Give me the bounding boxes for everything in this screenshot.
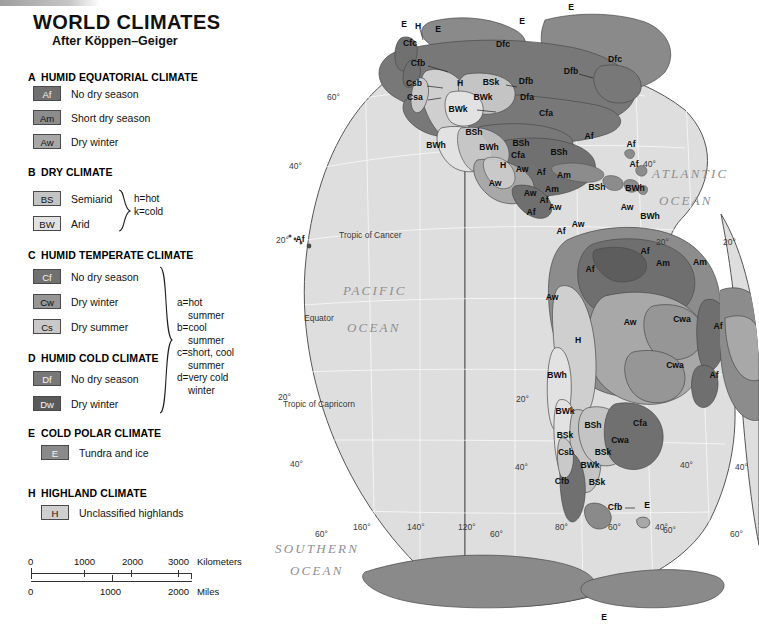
legend-note-b: h=hot k=cold bbox=[134, 193, 163, 218]
lat-label-40n-left: 40° bbox=[289, 161, 302, 171]
legend-swatch-bw[interactable]: BW bbox=[33, 216, 61, 231]
climate-code-af-33: Af bbox=[526, 207, 535, 217]
legend-label-cf: No dry season bbox=[71, 271, 139, 283]
legend-label-af: No dry season bbox=[71, 88, 139, 100]
scale-bar: 0 1000 2000 3000 Kilometers 0 1000 2000 … bbox=[28, 556, 218, 602]
legend-group-title-e: COLD POLAR CLIMATE bbox=[41, 427, 161, 439]
climate-code-bwh-43: BWh bbox=[640, 211, 660, 221]
ocean-label-pacific-line2: OCEAN bbox=[347, 320, 401, 335]
map-svg[interactable]: PACIFIC OCEAN ATLANTIC OCEAN SOUTHERN OC… bbox=[215, 0, 759, 634]
climate-code-bwk-17: BWk bbox=[448, 104, 467, 114]
climate-code-cfc-5: Cfc bbox=[403, 38, 417, 48]
legend-label-e: Tundra and ice bbox=[79, 447, 149, 459]
lat-label-40s-right: 40° bbox=[680, 460, 693, 470]
climate-code-cfa-18: Cfa bbox=[539, 108, 553, 118]
climate-code-cfb-6: Cfb bbox=[411, 58, 425, 68]
climate-code-am-29: Am bbox=[557, 170, 571, 180]
legend-label-df: No dry season bbox=[71, 373, 139, 385]
lon-label-40: 40° bbox=[655, 522, 668, 532]
climate-code-e-0: E bbox=[401, 19, 407, 29]
climate-code-e-67: E bbox=[644, 500, 650, 510]
ocean-label-atlantic-line1: ATLANTIC bbox=[651, 166, 728, 181]
climate-code-bsk-65: BSk bbox=[589, 477, 606, 487]
label-equator: Equator bbox=[304, 313, 334, 323]
lat-label-40s-far: 40° bbox=[735, 462, 748, 472]
legend-group-letter-b: B bbox=[28, 166, 36, 178]
scale-km-tick-3: 3000 bbox=[168, 556, 189, 567]
legend-group-title-a: HUMID EQUATORIAL CLIMATE bbox=[41, 71, 198, 83]
climate-code-dfc-8: Dfc bbox=[608, 54, 622, 64]
legend-swatch-cw[interactable]: Cw bbox=[33, 294, 61, 309]
legend-group-title-b: DRY CLIMATE bbox=[41, 166, 113, 178]
ocean-label-pacific-line1: PACIFIC bbox=[342, 283, 407, 298]
legend-label-bw: Arid bbox=[71, 218, 90, 230]
legend-label-aw: Dry winter bbox=[71, 136, 118, 148]
climate-code-bsk-62: BSk bbox=[595, 447, 612, 457]
climate-code-csa-10: Csa bbox=[407, 92, 423, 102]
legend-group-letter-d: D bbox=[28, 352, 36, 364]
legend-swatch-dw[interactable]: Dw bbox=[33, 396, 61, 411]
lat-label-20n-far: 20° bbox=[723, 237, 736, 247]
scale-mi-tick-2: 2000 bbox=[168, 586, 189, 597]
climate-code-bwk-63: BWk bbox=[580, 460, 599, 470]
climate-code-am-44: Am bbox=[656, 258, 670, 268]
legend-label-bs: Semiarid bbox=[71, 193, 112, 205]
world-climate-map[interactable]: PACIFIC OCEAN ATLANTIC OCEAN SOUTHERN OC… bbox=[215, 0, 759, 634]
lon-label-80: 80° bbox=[555, 522, 568, 532]
brace-b bbox=[118, 189, 132, 233]
climate-code-cwa-50: Cwa bbox=[673, 314, 691, 324]
legend-swatch-af[interactable]: Af bbox=[33, 86, 61, 101]
climate-code-bwk-56: BWk bbox=[555, 406, 574, 416]
climate-code-cfb-64: Cfb bbox=[555, 476, 569, 486]
legend-label-cs: Dry summer bbox=[71, 321, 128, 333]
lat-label-20s-mid: 20° bbox=[516, 394, 529, 404]
climate-code-e-2: E bbox=[519, 16, 525, 26]
climate-code-cfb-66: Cfb bbox=[608, 502, 622, 512]
climate-code-af-54: Af bbox=[709, 370, 718, 380]
climate-code-csb-61: Csb bbox=[558, 447, 574, 457]
legend-group-title-d: HUMID COLD CLIMATE bbox=[41, 352, 159, 364]
legend-label-am: Short dry season bbox=[71, 112, 150, 124]
lat-label-60s-left: 60° bbox=[315, 529, 328, 539]
climate-code-cfa-23: Cfa bbox=[511, 150, 525, 160]
legend-swatch-bs[interactable]: BS bbox=[33, 191, 61, 206]
ocean-label-southern-line2: OCEAN bbox=[290, 563, 344, 578]
label-tropic-of-capricorn: Tropic of Capricorn bbox=[283, 399, 355, 409]
climate-code-bsh-35: BSh bbox=[588, 182, 605, 192]
climate-code-bwh-36: BWh bbox=[625, 183, 645, 193]
legend-swatch-aw[interactable]: Aw bbox=[33, 134, 61, 149]
legend-group-letter-h: H bbox=[28, 487, 36, 499]
brace-cd bbox=[158, 265, 174, 415]
climate-code-dfb-14: Dfb bbox=[564, 66, 578, 76]
legend-swatch-h[interactable]: H bbox=[41, 505, 69, 520]
scale-km-tick-0: 0 bbox=[28, 556, 33, 567]
climate-code-dfa-16: Dfa bbox=[520, 92, 534, 102]
climate-code-bwh-21: BWh bbox=[479, 142, 499, 152]
climate-code-bwh-20: BWh bbox=[426, 140, 446, 150]
climate-code-h-25: H bbox=[500, 160, 506, 170]
climate-code-af-47: Af bbox=[585, 264, 594, 274]
ocean-label-southern-line1: SOUTHERN bbox=[275, 541, 359, 556]
legend-group-title-c: HUMID TEMPERATE CLIMATE bbox=[41, 249, 193, 261]
climate-code-cwa-53: Cwa bbox=[666, 360, 684, 370]
legend: A HUMID EQUATORIAL CLIMATE Af No dry sea… bbox=[0, 0, 250, 634]
lat-label-20n-left: 20° bbox=[276, 235, 289, 245]
climate-code-am-46: Am bbox=[693, 257, 707, 267]
legend-swatch-cf[interactable]: Cf bbox=[33, 269, 61, 284]
legend-swatch-df[interactable]: Df bbox=[33, 371, 61, 386]
climate-code-h-52: H bbox=[575, 335, 581, 345]
legend-swatch-cs[interactable]: Cs bbox=[33, 319, 61, 334]
legend-swatch-e[interactable]: E bbox=[41, 445, 69, 460]
climate-code-bsk-59: BSk bbox=[557, 430, 574, 440]
climate-code-af-45: Af bbox=[640, 246, 649, 256]
lon-label-120: 120° bbox=[458, 522, 476, 532]
climate-code-af-32: Af bbox=[539, 195, 548, 205]
lat-label-60s-mid: 60° bbox=[490, 529, 503, 539]
legend-swatch-am[interactable]: Am bbox=[33, 110, 61, 125]
climate-code-aw-26: Aw bbox=[516, 164, 529, 174]
lat-label-60n-left: 60° bbox=[327, 92, 340, 102]
lon-label-60: 60° bbox=[608, 522, 621, 532]
climate-code-aw-34: Aw bbox=[549, 202, 562, 212]
climate-code-af-39: Af bbox=[584, 131, 593, 141]
climate-code-e-1: E bbox=[435, 24, 441, 34]
